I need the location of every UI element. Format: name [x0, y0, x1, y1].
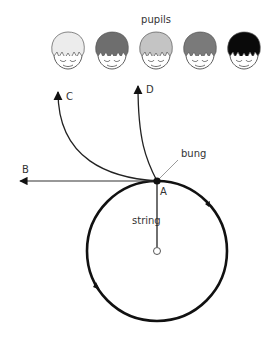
label-C: C	[66, 91, 73, 102]
pupil-head-4	[184, 32, 217, 69]
pupil-head-2	[96, 32, 129, 69]
bung-point-A	[153, 177, 160, 184]
center-pivot	[154, 248, 161, 255]
bung-label: bung	[181, 148, 206, 159]
label-D: D	[146, 84, 154, 95]
path-D-arrow	[138, 86, 157, 181]
diagram-canvas: pupils string B C D bung A	[0, 0, 274, 338]
pupil-head-5	[228, 32, 261, 69]
pupils-label: pupils	[141, 14, 171, 25]
pupils-row	[52, 32, 261, 69]
label-A: A	[160, 186, 167, 197]
bung-leader-line	[157, 160, 178, 181]
string-label: string	[132, 215, 161, 226]
pupil-head-3	[140, 32, 173, 69]
label-B: B	[22, 164, 29, 175]
pupil-head-1	[52, 32, 85, 69]
